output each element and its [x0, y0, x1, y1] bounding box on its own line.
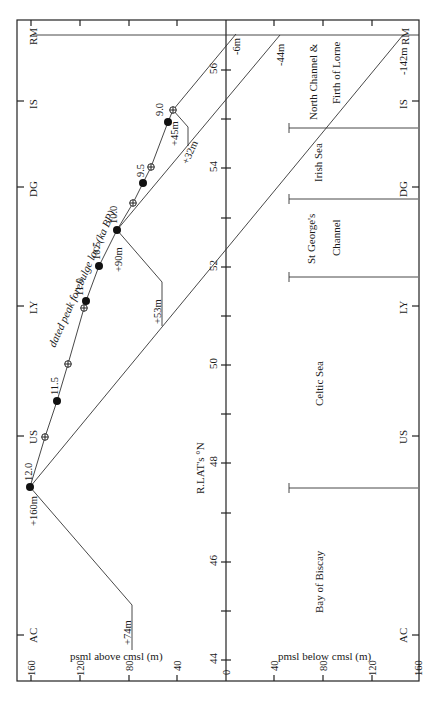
svg-text:+90m: +90m	[113, 247, 124, 272]
svg-text:LY: LY	[397, 300, 409, 314]
top-ticks	[31, 20, 372, 26]
svg-text:160: 160	[26, 660, 37, 676]
forebulge-chart: 56 54 52 50 48 46 44 R.LAT's °N 160 120 …	[0, 0, 432, 701]
svg-text:Channel: Channel	[330, 219, 342, 256]
svg-text:120: 120	[367, 660, 378, 676]
svg-text:46: 46	[207, 555, 219, 567]
svg-text:US: US	[397, 430, 409, 444]
chart-frame	[17, 20, 419, 681]
svg-text:+32m: +32m	[180, 139, 200, 166]
svg-text:LY: LY	[27, 300, 39, 314]
above-axis-title: psml above cmsl (m)	[70, 650, 163, 663]
svg-text:AC: AC	[27, 628, 39, 643]
series-label: dated peak forebulge loci (ka BP)	[46, 208, 118, 349]
site-labels-left: RM IS DG LY US AC	[27, 28, 39, 643]
svg-text:Bay of Biscay: Bay of Biscay	[313, 550, 325, 613]
svg-text:DG: DG	[27, 181, 39, 197]
svg-text:Firth of Lorne: Firth of Lorne	[330, 42, 342, 104]
svg-text:DG: DG	[397, 181, 409, 197]
svg-text:RM: RM	[399, 28, 411, 45]
svg-text:160: 160	[413, 660, 424, 676]
above-axis-labels: 160 120 80 40	[26, 660, 183, 676]
svg-text:St George's: St George's	[305, 214, 317, 264]
region-labels: North Channel & Firth of Lorne Irish Sea…	[305, 42, 342, 613]
below-axis-title: pmsl below cmsl (m)	[278, 650, 372, 663]
profile-line-minus-44m	[117, 35, 280, 230]
svg-text:AC: AC	[397, 628, 409, 643]
svg-text:+160m: +160m	[28, 496, 39, 526]
svg-text:-44m: -44m	[275, 44, 286, 66]
svg-text:US: US	[27, 430, 39, 444]
elevation-annotations: +160m +74m +90m +53m +45m +32m -6m -44m …	[28, 38, 409, 645]
svg-text:Irish Sea: Irish Sea	[312, 143, 324, 182]
svg-text:RM: RM	[27, 28, 39, 45]
svg-text:-142m: -142m	[398, 48, 409, 75]
svg-text:11.5: 11.5	[49, 377, 60, 395]
svg-text:40: 40	[172, 661, 183, 672]
svg-text:80: 80	[124, 661, 135, 672]
svg-text:56: 56	[207, 63, 219, 75]
svg-text:+74m: +74m	[122, 620, 133, 645]
crossed-markers	[42, 107, 177, 441]
svg-text:40: 40	[269, 661, 280, 672]
svg-text:-6m: -6m	[231, 38, 242, 55]
svg-text:Celtic Sea: Celtic Sea	[313, 361, 325, 406]
svg-text:44: 44	[207, 653, 219, 665]
latitude-labels: 56 54 52 50 48 46 44	[207, 63, 219, 665]
bracket-160m-74m	[30, 487, 132, 650]
svg-text:54: 54	[207, 161, 219, 173]
svg-text:120: 120	[75, 660, 86, 676]
site-labels-right: RM IS DG LY US AC	[397, 28, 411, 643]
svg-text:+45m: +45m	[169, 121, 180, 146]
svg-text:9.0: 9.0	[154, 103, 165, 116]
svg-text:80: 80	[318, 661, 329, 672]
svg-text:48: 48	[207, 456, 219, 468]
age-labels: 12.0 11.5 11.0 10.5 10.0 9.5 9.0	[23, 103, 165, 481]
svg-text:IS: IS	[27, 99, 39, 109]
latitude-axis-title: R.LAT's °N	[194, 442, 206, 494]
svg-text:IS: IS	[397, 99, 409, 109]
svg-text:0: 0	[221, 670, 232, 675]
svg-text:North Channel &: North Channel &	[307, 43, 319, 120]
svg-text:+53m: +53m	[152, 299, 163, 324]
svg-text:9.5: 9.5	[135, 164, 146, 177]
below-axis-labels: 0 40 80 120 160	[221, 660, 424, 676]
forebulge-loci-line	[30, 34, 236, 487]
svg-text:12.0: 12.0	[23, 463, 34, 481]
svg-text:50: 50	[207, 358, 219, 370]
